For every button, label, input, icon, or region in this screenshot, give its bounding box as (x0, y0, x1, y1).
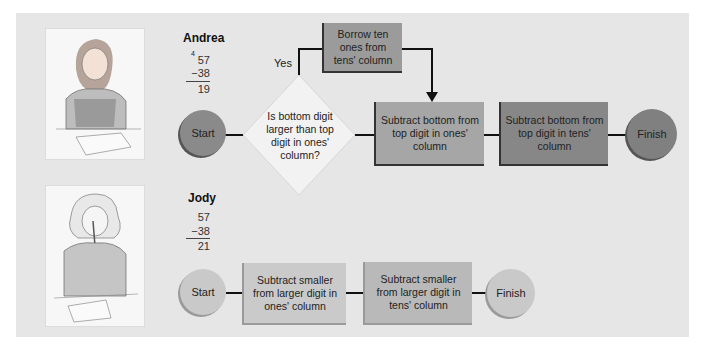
jody-finish-node: Finish (487, 269, 535, 317)
jody-finish-label: Finish (496, 287, 525, 299)
andrea-illustration (45, 28, 145, 160)
borrow-step-label: Borrow ten ones from tens' column (328, 28, 398, 67)
connector-borrow-horizontal (402, 48, 433, 50)
jody-connector-tens-finish (472, 292, 488, 294)
andrea-start-label: Start (191, 127, 214, 139)
jody-connector-start-ones (226, 292, 243, 294)
andrea-ones-step: Subtract bottom from top digit in ones' … (374, 102, 484, 166)
andrea-top-number: 57 (184, 54, 210, 67)
jody-tens-step: Subtract smaller from larger digit in te… (363, 262, 472, 325)
jody-name: Jody (188, 191, 216, 205)
connector-ones-tens (484, 134, 500, 136)
jody-tens-step-label: Subtract smaller from larger digit in te… (369, 273, 468, 312)
andrea-sum-rule (186, 81, 210, 82)
jody-ones-step-label: Subtract smaller from larger digit in on… (248, 274, 342, 313)
jody-sum-rule (186, 238, 210, 239)
andrea-answer: 19 (184, 83, 210, 96)
andrea-ones-step-label: Subtract bottom from top digit in ones' … (380, 114, 480, 153)
decision-text: Is bottom digit larger than top digit in… (258, 112, 342, 160)
girl-writing-icon (46, 29, 144, 159)
connector-yes-vertical (298, 48, 300, 76)
andrea-bottom-number: −38 (184, 67, 210, 80)
borrow-step: Borrow ten ones from tens' column (322, 23, 402, 73)
jody-start-label: Start (191, 286, 214, 298)
andrea-finish-node: Finish (627, 109, 677, 159)
girl-with-pencil-icon (46, 186, 144, 326)
jody-illustration (45, 185, 145, 327)
connector-yes-horizontal (298, 48, 323, 50)
jody-answer: 21 (184, 240, 210, 253)
jody-connector-ones-tens (346, 292, 364, 294)
andrea-tens-step-label: Subtract bottom from top digit in tens' … (505, 114, 604, 153)
jody-ones-step: Subtract smaller from larger digit in on… (242, 263, 346, 325)
jody-start-node: Start (180, 269, 226, 315)
connector-borrow-vertical (431, 48, 433, 94)
connector-decision-ones (354, 134, 375, 136)
andrea-tens-step: Subtract bottom from top digit in tens' … (499, 102, 608, 166)
connector-start-decision (225, 134, 245, 136)
jody-bottom-number: −38 (184, 225, 210, 238)
jody-top-number: 57 (184, 211, 210, 224)
connector-tens-finish (608, 134, 628, 136)
andrea-name: Andrea (183, 31, 224, 45)
yes-label: Yes (274, 57, 292, 69)
andrea-finish-label: Finish (637, 128, 666, 140)
andrea-start-node: Start (180, 110, 226, 156)
